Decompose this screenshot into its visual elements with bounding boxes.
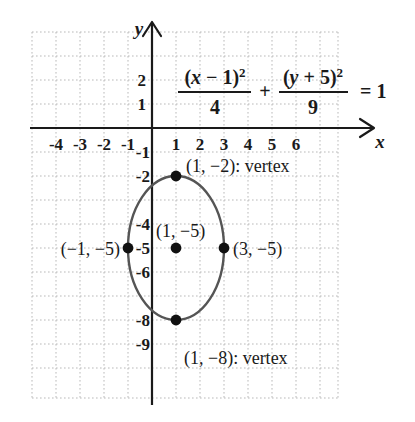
label-top-vertex: (1, −2): vertex — [186, 156, 290, 177]
y-tick-label: -6 — [136, 263, 150, 282]
y-tick-label: -9 — [136, 335, 150, 354]
y-tick-label: -2 — [136, 167, 150, 186]
y-tick-label: 1 — [138, 95, 147, 114]
label-center: (1, −5) — [156, 221, 205, 242]
point-center — [171, 243, 182, 254]
ellipse-graph-figure: x y -4 -3 -2 -1 1 2 3 4 5 6 2 1 -1 -2 -4… — [0, 0, 415, 422]
coordinate-plane-svg: x y -4 -3 -2 -1 1 2 3 4 5 6 2 1 -1 -2 -4… — [0, 0, 415, 422]
x-tick-label: -2 — [97, 135, 111, 154]
y-tick-label: -1 — [136, 143, 150, 162]
x-tick-label: -4 — [49, 135, 64, 154]
label-right-covertex: (3, −5) — [233, 239, 282, 260]
x-tick-label: -3 — [73, 135, 87, 154]
y-tick-label: -8 — [136, 311, 150, 330]
y-tick-label: 2 — [138, 71, 147, 90]
equation-equals-one: = 1 — [360, 80, 386, 102]
equation-denominator-1: 4 — [210, 96, 220, 118]
equation-plus-sign: + — [259, 80, 270, 102]
equation-denominator-2: 9 — [308, 96, 318, 118]
y-tick-label: -4 — [136, 215, 151, 234]
point-top-vertex — [171, 171, 182, 182]
x-tick-label: -1 — [121, 135, 135, 154]
label-left-covertex: (−1, −5) — [61, 239, 120, 260]
y-tick-label: -5 — [136, 239, 150, 258]
x-tick-label: 4 — [244, 135, 253, 154]
equation-numerator-2: (y + 5)2 — [283, 65, 343, 90]
x-tick-label: 2 — [196, 135, 205, 154]
x-axis-label: x — [374, 131, 385, 152]
label-bottom-vertex: (1, −8): vertex — [184, 348, 288, 369]
point-left-covertex — [123, 243, 134, 254]
point-right-covertex — [219, 243, 230, 254]
x-tick-label: 6 — [292, 135, 301, 154]
x-tick-label: 3 — [220, 135, 229, 154]
point-bottom-vertex — [171, 315, 182, 326]
x-tick-label: 1 — [172, 135, 181, 154]
x-tick-label: 5 — [268, 135, 277, 154]
y-axis-label: y — [133, 18, 144, 39]
equation-numerator-1: (x − 1)2 — [184, 65, 245, 90]
